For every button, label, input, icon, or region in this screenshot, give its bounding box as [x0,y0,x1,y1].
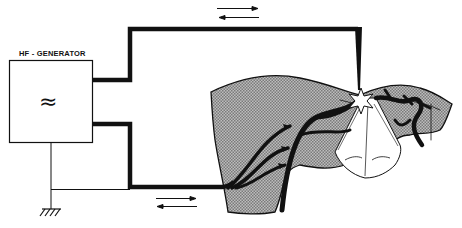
hf-generator-label: HF - GENERATOR [19,49,86,58]
active-electrode-tip [355,27,362,90]
diagram-canvas [0,0,462,228]
active-electrode-wire [93,29,358,80]
current-arrows-bottom [156,197,197,209]
ground-connection [51,142,130,209]
ac-wave-icon: ≈ [39,91,57,113]
ground-symbol [40,209,61,216]
tissue-body [211,76,452,214]
return-electrode-wire [93,124,234,187]
current-arrows-top [217,7,259,20]
